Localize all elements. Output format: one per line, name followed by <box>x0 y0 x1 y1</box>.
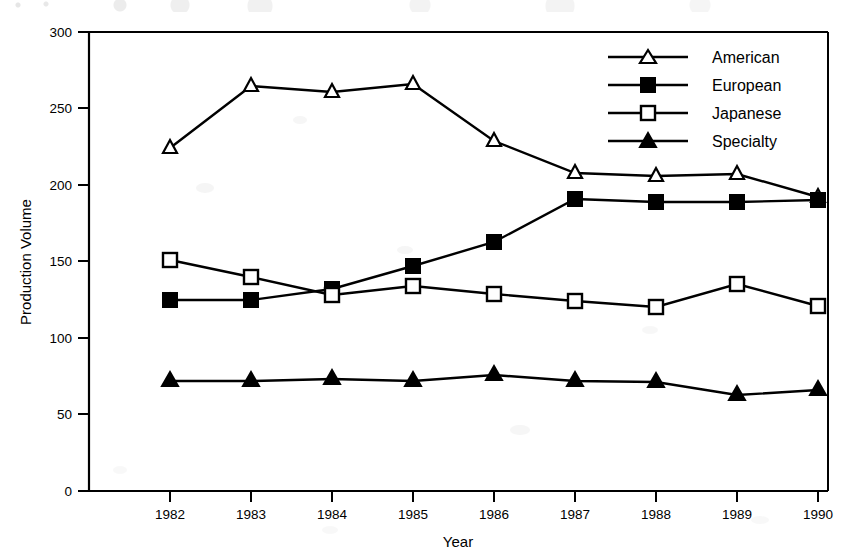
legend-label-specialty: Specialty <box>712 133 777 150</box>
y-axis-ticks <box>78 32 89 491</box>
series-group <box>162 76 826 400</box>
legend-item-specialty[interactable]: Specialty <box>608 133 777 150</box>
chart-legend: American European Japanese Specialty <box>608 49 781 150</box>
x-tick-label-1989: 1989 <box>722 507 752 522</box>
y-tick-label-0: 0 <box>64 484 72 499</box>
legend-item-european[interactable]: European <box>608 77 781 94</box>
x-tick-label-1986: 1986 <box>479 507 509 522</box>
x-tick-label-1985: 1985 <box>398 507 428 522</box>
y-tick-label-50: 50 <box>57 407 72 422</box>
x-axis-tick-labels: 1982 1983 1984 1985 1986 1987 1988 1989 … <box>155 507 833 522</box>
series-specialty <box>162 366 826 400</box>
x-axis-title: Year <box>443 533 473 550</box>
open-square-icon <box>641 106 655 120</box>
legend-label-european: European <box>712 77 781 94</box>
plot-frame <box>89 32 828 491</box>
scan-speck-group <box>113 116 769 534</box>
y-tick-label-250: 250 <box>49 101 72 116</box>
legend-label-american: American <box>712 49 780 66</box>
y-tick-label-150: 150 <box>49 254 72 269</box>
x-tick-label-1988: 1988 <box>641 507 671 522</box>
filled-square-icon <box>641 78 655 92</box>
x-tick-label-1984: 1984 <box>317 507 348 522</box>
x-tick-label-1990: 1990 <box>803 507 833 522</box>
legend-item-american[interactable]: American <box>608 49 780 66</box>
x-tick-label-1982: 1982 <box>155 507 185 522</box>
series-japanese <box>163 253 825 314</box>
x-tick-label-1987: 1987 <box>560 507 590 522</box>
legend-item-japanese[interactable]: Japanese <box>608 105 781 122</box>
series-japanese-markers <box>163 253 825 314</box>
legend-label-japanese: Japanese <box>712 105 781 122</box>
series-specialty-markers <box>162 366 826 400</box>
y-axis-title: Production Volume <box>17 199 34 325</box>
y-tick-label-100: 100 <box>49 331 72 346</box>
y-tick-label-300: 300 <box>49 25 72 40</box>
y-axis-tick-labels: 300 250 200 150 100 50 0 <box>49 25 72 499</box>
x-axis-ticks <box>170 491 818 502</box>
y-tick-label-200: 200 <box>49 178 72 193</box>
x-tick-label-1983: 1983 <box>236 507 266 522</box>
production-volume-line-chart: 300 250 200 150 100 50 0 1982 1983 1984 … <box>0 0 850 555</box>
